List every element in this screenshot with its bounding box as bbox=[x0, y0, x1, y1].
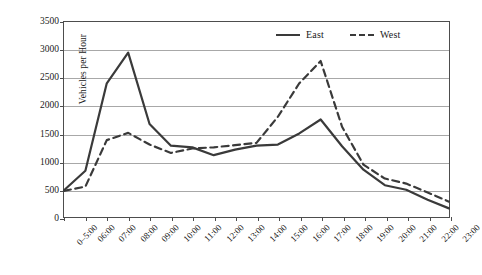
y-tick-label-1500: 1500 bbox=[40, 130, 59, 140]
legend-label-east: East bbox=[306, 30, 324, 40]
x-tick-label-3: 08:00 bbox=[139, 223, 160, 244]
x-tick-mark-13 bbox=[344, 217, 345, 221]
x-tick-label-2: 07:00 bbox=[117, 223, 138, 244]
x-tick-mark-6 bbox=[193, 217, 194, 221]
legend-entry-east: East bbox=[276, 30, 324, 40]
x-tick-label-11: 16:00 bbox=[311, 223, 332, 244]
legend-swatch-west-dashed-line bbox=[350, 34, 374, 36]
y-tick-label-3000: 3000 bbox=[40, 45, 59, 55]
x-tick-mark-12 bbox=[322, 217, 323, 221]
x-tick-label-14: 19:00 bbox=[375, 223, 396, 244]
x-tick-mark-7 bbox=[215, 217, 216, 221]
x-tick-mark-3 bbox=[129, 217, 130, 221]
x-tick-mark-4 bbox=[150, 217, 151, 221]
x-tick-mark-9 bbox=[258, 217, 259, 221]
x-tick-mark-0 bbox=[64, 217, 65, 221]
x-tick-label-17: 22:00 bbox=[440, 223, 461, 244]
x-tick-label-1: 06:00 bbox=[96, 223, 117, 244]
x-tick-mark-10 bbox=[279, 217, 280, 221]
chart-legend: East West bbox=[276, 30, 401, 40]
y-axis-title: Vehicles per Hour bbox=[78, 4, 88, 134]
x-tick-mark-1 bbox=[86, 217, 87, 221]
x-tick-label-8: 13:00 bbox=[246, 223, 267, 244]
x-tick-mark-18 bbox=[451, 217, 452, 221]
plot-area: 0500100015002000250030003500 0–5:0006:00… bbox=[63, 21, 450, 218]
series-layer bbox=[64, 22, 449, 217]
x-tick-label-13: 18:00 bbox=[354, 223, 375, 244]
y-tick-label-1000: 1000 bbox=[40, 158, 59, 168]
series-line-west bbox=[64, 61, 449, 202]
x-tick-label-10: 15:00 bbox=[289, 223, 310, 244]
x-tick-label-5: 10:00 bbox=[182, 223, 203, 244]
x-tick-label-4: 09:00 bbox=[160, 223, 181, 244]
legend-swatch-east-solid-line bbox=[276, 34, 300, 36]
y-tick-label-3500: 3500 bbox=[40, 17, 59, 27]
x-tick-mark-16 bbox=[408, 217, 409, 221]
x-tick-label-9: 14:00 bbox=[268, 223, 289, 244]
y-tick-label-500: 500 bbox=[45, 186, 59, 196]
x-tick-mark-2 bbox=[107, 217, 108, 221]
y-tick-label-2500: 2500 bbox=[40, 74, 59, 84]
x-tick-label-6: 11:00 bbox=[203, 223, 224, 244]
x-tick-label-7: 12:00 bbox=[225, 223, 246, 244]
x-tick-label-15: 20:00 bbox=[397, 223, 418, 244]
x-tick-mark-8 bbox=[236, 217, 237, 221]
y-tick-label-0: 0 bbox=[54, 214, 59, 224]
x-tick-mark-14 bbox=[365, 217, 366, 221]
x-tick-mark-15 bbox=[387, 217, 388, 221]
x-tick-label-12: 17:00 bbox=[332, 223, 353, 244]
x-tick-label-16: 21:00 bbox=[418, 223, 439, 244]
series-line-east bbox=[64, 53, 449, 209]
x-tick-mark-17 bbox=[430, 217, 431, 221]
x-tick-mark-11 bbox=[301, 217, 302, 221]
x-tick-mark-5 bbox=[172, 217, 173, 221]
x-tick-label-18: 23:00 bbox=[461, 223, 482, 244]
y-tick-label-2000: 2000 bbox=[40, 102, 59, 112]
legend-entry-west: West bbox=[350, 30, 401, 40]
legend-label-west: West bbox=[380, 30, 401, 40]
